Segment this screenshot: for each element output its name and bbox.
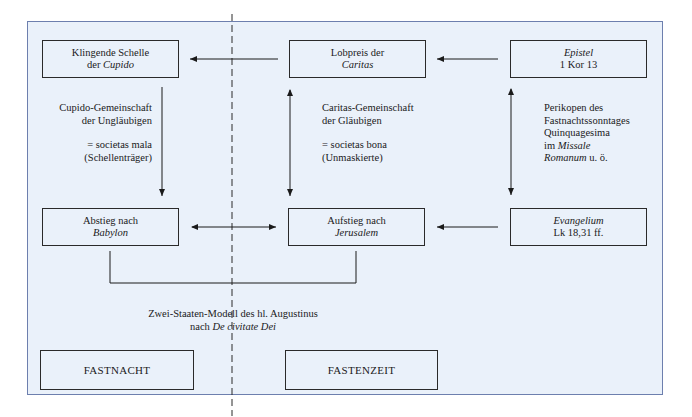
zwei-staaten-bracket (110, 251, 356, 283)
node-fastnacht-label: FASTNACHT (84, 364, 151, 377)
label-caritas-line4: (Unmaskierte) (322, 152, 414, 165)
label-caritas-gemeinschaft: Caritas-Gemeinschaft der Gläubigen = soc… (322, 102, 414, 164)
node-fastenzeit: FASTENZEIT (285, 350, 438, 390)
label-cupido-line4: (Schellenträger) (40, 152, 152, 165)
node-abstieg: Abstieg nach Babylon (42, 208, 179, 246)
node-epistel-line2: 1 Kor 13 (560, 59, 597, 72)
label-perikopen-line5-italic: Romanum (544, 152, 587, 163)
label-cupido-line1: Cupido-Gemeinschaft (40, 102, 152, 115)
node-aufstieg-line2: Jerusalem (335, 227, 378, 240)
node-lobpreis-line1: Lobpreis der (331, 47, 384, 60)
node-klingende-schelle-line1: Klingende Schelle (72, 47, 149, 60)
label-perikopen-line5-suffix: u. ö. (587, 152, 608, 163)
node-epistel: Epistel 1 Kor 13 (510, 40, 647, 78)
node-klingende-schelle-line2-prefix: der (87, 59, 103, 70)
label-cupido-line3: = societas mala (40, 139, 152, 152)
node-evangelium-line2: Lk 18,31 ff. (554, 227, 604, 240)
label-caritas-line2: der Gläubigen (322, 115, 414, 128)
label-cupido-gemeinschaft: Cupido-Gemeinschaft der Ungläubigen = so… (40, 102, 152, 164)
node-abstieg-line2: Babylon (93, 227, 128, 240)
label-perikopen-line4-italic: Missale (558, 140, 591, 151)
label-caritas-line1: Caritas-Gemeinschaft (322, 102, 414, 115)
label-zwei-staaten: Zwei-Staaten-Modell des hl. Augustinus n… (133, 308, 333, 333)
label-perikopen-line3: Quinquagesima (544, 127, 630, 140)
label-perikopen-line4-prefix: im (544, 140, 558, 151)
node-aufstieg-line1: Aufstieg nach (327, 215, 386, 228)
node-evangelium: Evangelium Lk 18,31 ff. (510, 208, 647, 246)
node-fastnacht: FASTNACHT (40, 350, 194, 390)
node-lobpreis-line2: Caritas (342, 59, 374, 72)
label-perikopen: Perikopen des Fastnachtssonntages Quinqu… (544, 102, 630, 165)
label-cupido-line2: der Ungläubigen (40, 115, 152, 128)
label-zwei-staaten-line2-italic: De civitate Dei (212, 321, 276, 332)
node-klingende-schelle-line2-italic: Cupido (103, 59, 134, 70)
label-perikopen-line2: Fastnachtssonntages (544, 115, 630, 128)
label-caritas-line3: = societas bona (322, 139, 414, 152)
node-klingende-schelle: Klingende Schelle der Cupido (42, 40, 179, 78)
label-perikopen-line1: Perikopen des (544, 102, 630, 115)
node-abstieg-line1: Abstieg nach (83, 215, 138, 228)
label-zwei-staaten-line2-prefix: nach (190, 321, 212, 332)
label-zwei-staaten-line1: Zwei-Staaten-Modell des hl. Augustinus (133, 308, 333, 321)
node-lobpreis: Lobpreis der Caritas (289, 40, 426, 78)
node-fastenzeit-label: FASTENZEIT (328, 364, 396, 377)
node-evangelium-line1: Evangelium (553, 215, 603, 228)
node-aufstieg: Aufstieg nach Jerusalem (288, 208, 425, 246)
node-epistel-line1: Epistel (564, 47, 593, 60)
